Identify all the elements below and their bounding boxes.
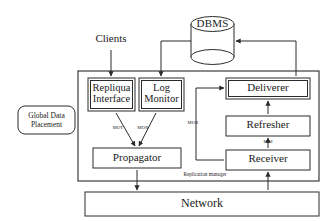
refresher-box — [226, 116, 310, 136]
diagram-vector-layer — [0, 0, 334, 221]
repliqua-interface-box — [88, 78, 135, 111]
diagram-canvas: Clients DBMS Global Data Placement Repli… — [0, 0, 334, 221]
log-monitor-box — [139, 78, 184, 111]
deliverer-box — [226, 78, 310, 99]
propagator-box — [93, 148, 181, 168]
network-box — [85, 192, 319, 216]
receiver-box — [226, 150, 310, 170]
dbms-cylinder — [191, 17, 234, 65]
global-data-placement-box — [18, 106, 75, 134]
